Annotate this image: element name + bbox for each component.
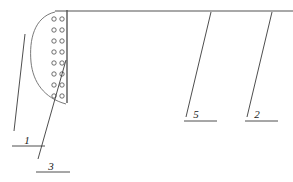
- reinforcement-circle-right-5: [60, 61, 64, 65]
- callout-2-label: 2: [254, 108, 260, 120]
- reinforcement-circle-right-7: [60, 83, 64, 87]
- reinforcement-circle-right-3: [60, 39, 64, 43]
- callout-5-label: 5: [193, 108, 199, 120]
- reinforcement-circle-left-6: [52, 72, 56, 76]
- reinforcement-circle-right-4: [60, 50, 64, 54]
- callout-1-label: 1: [24, 134, 30, 146]
- reinforcement-circle-right-1: [60, 17, 64, 21]
- reinforcement-circle-left-1: [52, 17, 56, 21]
- reinforcement-circle-right-8: [60, 94, 64, 98]
- technical-drawing-figure: 1352: [0, 0, 293, 182]
- callout-3-label: 3: [47, 160, 54, 172]
- reinforcement-circle-left-3: [52, 39, 56, 43]
- reinforcement-circle-left-2: [52, 28, 56, 32]
- reinforcement-circle-left-5: [52, 61, 56, 65]
- reinforcement-circle-right-2: [60, 28, 64, 32]
- reinforcement-circle-left-7: [52, 83, 56, 87]
- reinforcement-circle-left-4: [52, 50, 56, 54]
- drawing-canvas: 1352: [0, 0, 293, 182]
